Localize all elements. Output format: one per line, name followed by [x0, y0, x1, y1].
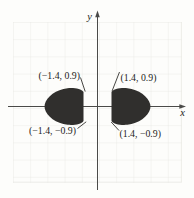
point-label-top-left: (−1.4, 0.9): [39, 70, 80, 82]
coordinate-plane: x y (−1.4, 0.9) (1.4, 0.9) (−1.4, −0.9) …: [0, 0, 194, 198]
point-label-bottom-left: (−1.4, −0.9): [29, 125, 76, 137]
point-label-top-right: (1.4, 0.9): [121, 72, 157, 84]
graph-figure: x y (−1.4, 0.9) (1.4, 0.9) (−1.4, −0.9) …: [0, 0, 194, 198]
point-label-bottom-right: (1.4, −0.9): [120, 128, 161, 140]
y-axis-label: y: [86, 11, 92, 22]
y-axis-arrow-icon: [95, 11, 100, 18]
x-axis-label: x: [179, 107, 185, 118]
